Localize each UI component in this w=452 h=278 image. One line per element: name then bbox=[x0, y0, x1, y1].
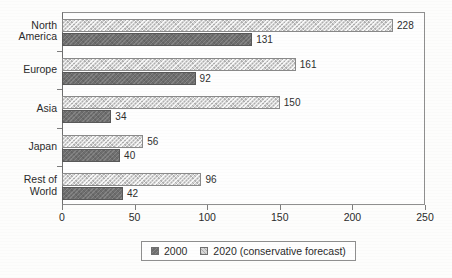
plot-area: 228131161921503456409642 bbox=[62, 12, 425, 205]
x-axis-tick-label: 250 bbox=[416, 211, 434, 223]
bar-value-label: 34 bbox=[115, 110, 126, 123]
bar-2000-japan bbox=[62, 149, 120, 162]
category-label-asia: Asia bbox=[0, 103, 57, 115]
bar-value-label: 42 bbox=[127, 187, 138, 200]
x-axis-tick bbox=[207, 205, 208, 210]
chart-legend: 2000 2020 (conservative forecast) bbox=[141, 241, 356, 261]
dark-swatch-icon bbox=[151, 247, 159, 255]
y-axis-tick bbox=[57, 128, 62, 129]
y-axis-tick bbox=[57, 51, 62, 52]
legend-label-2020: 2020 (conservative forecast) bbox=[213, 245, 345, 257]
x-axis-tick-label: 100 bbox=[198, 211, 216, 223]
bar-2020-europe bbox=[62, 58, 296, 71]
x-axis-tick bbox=[62, 205, 63, 210]
category-label-line: World bbox=[0, 186, 57, 198]
x-axis-tick bbox=[280, 205, 281, 210]
bar-value-label: 228 bbox=[397, 19, 414, 32]
bar-chart: 228131161921503456409642 NorthAmericaEur… bbox=[0, 0, 452, 278]
x-axis-tick bbox=[425, 205, 426, 210]
category-label-line: Japan bbox=[0, 141, 57, 153]
bar-value-label: 150 bbox=[284, 96, 301, 109]
category-label-line: America bbox=[0, 31, 57, 43]
x-axis-tick bbox=[135, 205, 136, 210]
x-axis-tick bbox=[352, 205, 353, 210]
legend-item-2000[interactable]: 2000 bbox=[151, 245, 187, 257]
bar-value-label: 131 bbox=[256, 33, 273, 46]
bar-2020-rest-of-world bbox=[62, 173, 201, 186]
x-axis-tick-label: 0 bbox=[59, 211, 65, 223]
bar-2000-asia bbox=[62, 110, 111, 123]
y-axis-tick bbox=[57, 89, 62, 90]
bar-2020-asia bbox=[62, 96, 280, 109]
light-swatch-icon bbox=[200, 247, 208, 255]
bar-2000-rest-of-world bbox=[62, 187, 123, 200]
x-axis-tick-label: 50 bbox=[129, 211, 141, 223]
category-label-north-america: NorthAmerica bbox=[0, 20, 57, 43]
legend-label-2000: 2000 bbox=[164, 245, 187, 257]
category-label-line: Europe bbox=[0, 64, 57, 76]
bar-value-label: 161 bbox=[300, 58, 317, 71]
legend-item-2020[interactable]: 2020 (conservative forecast) bbox=[200, 245, 345, 257]
bar-2020-japan bbox=[62, 135, 143, 148]
bar-value-label: 56 bbox=[147, 135, 158, 148]
category-label-japan: Japan bbox=[0, 141, 57, 153]
bar-2000-north-america bbox=[62, 33, 252, 46]
category-label-europe: Europe bbox=[0, 64, 57, 76]
x-axis-tick-label: 150 bbox=[271, 211, 289, 223]
category-label-line: Rest of bbox=[0, 174, 57, 186]
category-label-rest-of-world: Rest ofWorld bbox=[0, 174, 57, 197]
bar-value-label: 96 bbox=[205, 173, 216, 186]
x-axis-tick-label: 200 bbox=[344, 211, 362, 223]
category-label-line: Asia bbox=[0, 103, 57, 115]
bar-value-label: 92 bbox=[200, 72, 211, 85]
bar-2020-north-america bbox=[62, 19, 393, 32]
bar-2000-europe bbox=[62, 72, 196, 85]
bar-value-label: 40 bbox=[124, 149, 135, 162]
y-axis-tick bbox=[57, 166, 62, 167]
